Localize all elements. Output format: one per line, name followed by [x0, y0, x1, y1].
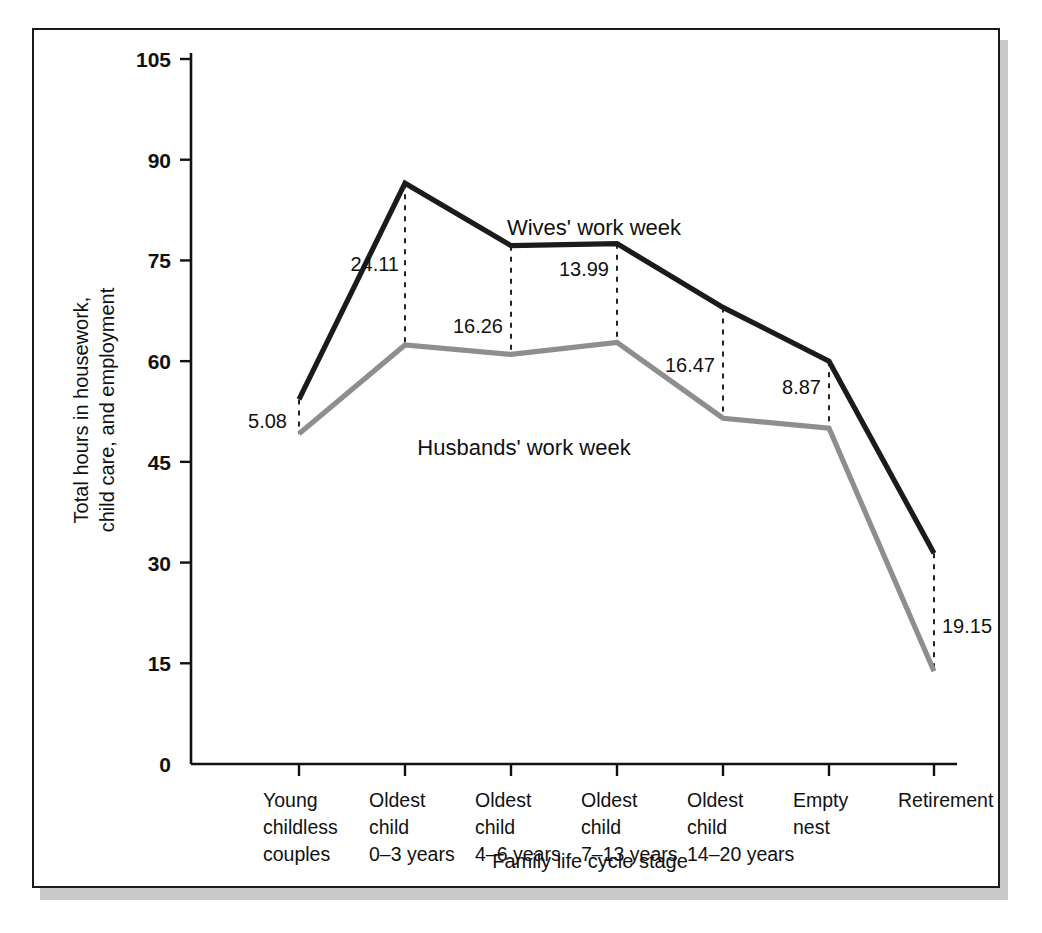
- x-category-label-4: Oldest: [687, 789, 744, 811]
- gap-value-label-0: 5.08: [248, 410, 287, 432]
- y-tick-label-75: 75: [148, 249, 172, 272]
- line-chart: 0153045607590105Total hours in housework…: [34, 30, 1002, 890]
- y-tick-label-60: 60: [148, 350, 171, 373]
- x-category-label-6: Retirement: [898, 789, 994, 811]
- x-category-label-3: 7–13 years: [581, 843, 678, 865]
- gap-value-label-1: 24.11: [350, 253, 399, 275]
- y-tick-label-30: 30: [148, 552, 171, 575]
- x-category-label-4: child: [687, 816, 727, 838]
- x-category-label-2: Oldest: [475, 789, 532, 811]
- y-axis-title-line2: child care, and employment: [96, 287, 118, 532]
- x-category-label-0: couples: [263, 843, 330, 865]
- y-axis-title-line1: Total hours in housework,: [70, 297, 92, 524]
- y-tick-label-105: 105: [136, 48, 171, 71]
- y-axis-title: Total hours in housework,child care, and…: [70, 287, 118, 532]
- x-category-label-0: childless: [263, 816, 338, 838]
- x-category-label-0: Young: [263, 789, 318, 811]
- plot-area: 0153045607590105Total hours in housework…: [34, 30, 1002, 890]
- x-category-label-2: 4–6 years: [475, 843, 561, 865]
- chart-page: 0153045607590105Total hours in housework…: [0, 0, 1042, 933]
- gap-value-label-5: 8.87: [782, 376, 821, 398]
- x-category-label-3: child: [581, 816, 621, 838]
- x-category-label-2: child: [475, 816, 515, 838]
- husbands-series-label: Husbands' work week: [417, 435, 631, 460]
- y-tick-label-45: 45: [148, 451, 172, 474]
- wives-series-label: Wives' work week: [507, 215, 682, 240]
- x-category-label-1: child: [369, 816, 409, 838]
- x-category-label-3: Oldest: [581, 789, 638, 811]
- x-category-label-5: Empty: [793, 789, 849, 811]
- y-tick-label-15: 15: [148, 652, 172, 675]
- husbands-work-week-line: [299, 342, 934, 671]
- y-tick-label-90: 90: [148, 149, 171, 172]
- gap-value-label-3: 13.99: [559, 258, 609, 280]
- x-category-label-1: 0–3 years: [369, 843, 455, 865]
- x-category-label-4: 14–20 years: [687, 843, 795, 865]
- gap-value-label-2: 16.26: [453, 315, 503, 337]
- gap-value-label-6: 19.15: [942, 615, 992, 637]
- gap-value-label-4: 16.47: [665, 354, 715, 376]
- y-tick-label-0: 0: [159, 753, 171, 776]
- x-category-label-1: Oldest: [369, 789, 426, 811]
- x-category-label-5: nest: [793, 816, 830, 838]
- figure-frame: 0153045607590105Total hours in housework…: [32, 28, 1000, 888]
